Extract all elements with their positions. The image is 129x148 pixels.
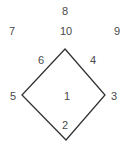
diamond-diagram: 1 2 3 4 5 6 7 8 9 10 (0, 0, 129, 148)
label-5: 5 (10, 91, 16, 102)
label-10: 10 (60, 26, 72, 37)
label-3: 3 (111, 91, 117, 102)
label-9: 9 (114, 26, 120, 37)
label-1: 1 (64, 91, 70, 102)
label-2: 2 (62, 120, 68, 131)
label-6: 6 (38, 55, 44, 66)
label-7: 7 (9, 26, 15, 37)
label-4: 4 (90, 55, 96, 66)
label-8: 8 (62, 6, 68, 17)
